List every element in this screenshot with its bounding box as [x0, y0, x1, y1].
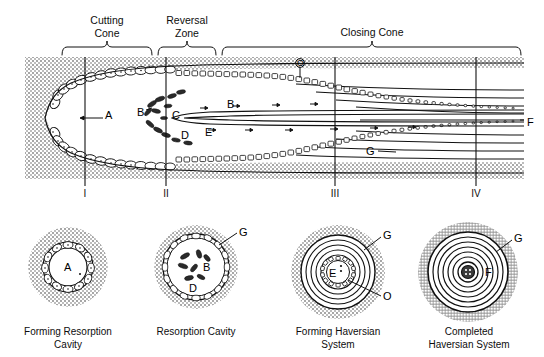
- cross-section-forming-haversian-system: [291, 225, 385, 319]
- cs1-label-A: A: [64, 262, 71, 273]
- main-label-C: C: [172, 110, 180, 121]
- zone-label-closing-cone-line1: Closing Cone: [340, 26, 403, 38]
- cs4-label-F: F: [485, 267, 492, 278]
- cs4-label-G: G: [514, 233, 523, 244]
- main-label-O: O: [297, 58, 304, 69]
- zone-label-cutting-cone-line2: Cone: [94, 27, 119, 39]
- section-marker-I: I: [75, 188, 95, 199]
- cs3-label-G: G: [383, 230, 392, 241]
- zone-label-closing-cone: Closing Cone: [312, 26, 432, 39]
- cross-section-resorption-cavity: [154, 225, 238, 309]
- figure-canvas: Cutting Cone Reversal Zone Closing Cone …: [0, 0, 544, 357]
- zone-braces: [62, 41, 521, 55]
- section-marker-III: III: [325, 188, 345, 199]
- zone-label-reversal-zone-line1: Reversal: [166, 14, 207, 26]
- caption-cs4-line1: Completed: [445, 326, 493, 337]
- section-marker-II: II: [156, 188, 176, 199]
- longitudinal-section-panel: [25, 57, 524, 186]
- caption-cs4-line2: Haversian System: [428, 339, 509, 350]
- section-marker-IV: IV: [466, 188, 486, 199]
- zone-label-reversal-zone-line2: Zone: [175, 27, 199, 39]
- caption-cs1-line1: Forming Resorption: [24, 326, 112, 337]
- main-label-B-closing: B: [227, 99, 234, 110]
- main-label-F: F: [527, 117, 534, 128]
- main-label-E: E: [205, 127, 212, 138]
- caption-forming-resorption-cavity: Forming Resorption Cavity: [8, 326, 128, 351]
- caption-completed-haversian-system: Completed Haversian System: [406, 326, 532, 351]
- cross-section-completed-haversian-system: [418, 222, 518, 322]
- caption-cs2-line1: Resorption Cavity: [157, 326, 236, 337]
- main-label-G: G: [366, 146, 375, 157]
- caption-cs3-line2: System: [321, 339, 354, 350]
- cs2-label-D: D: [189, 283, 197, 294]
- cs2-label-B: B: [203, 262, 210, 273]
- caption-forming-haversian-system: Forming Haversian System: [278, 326, 398, 351]
- zone-label-cutting-cone-line1: Cutting: [90, 14, 123, 26]
- caption-resorption-cavity: Resorption Cavity: [141, 326, 251, 339]
- bone-remodeling-diagram: [0, 0, 544, 357]
- caption-cs3-line1: Forming Haversian: [296, 326, 380, 337]
- main-label-B-cutting: B: [137, 107, 144, 118]
- main-label-A: A: [105, 110, 112, 121]
- caption-cs1-line2: Cavity: [54, 339, 82, 350]
- main-label-D: D: [181, 130, 189, 141]
- zone-label-cutting-cone: Cutting Cone: [62, 14, 152, 39]
- cs2-label-G: G: [239, 227, 248, 238]
- zone-label-reversal-zone: Reversal Zone: [147, 14, 227, 39]
- cs3-label-O: O: [383, 291, 392, 302]
- cs3-label-E: E: [329, 268, 336, 279]
